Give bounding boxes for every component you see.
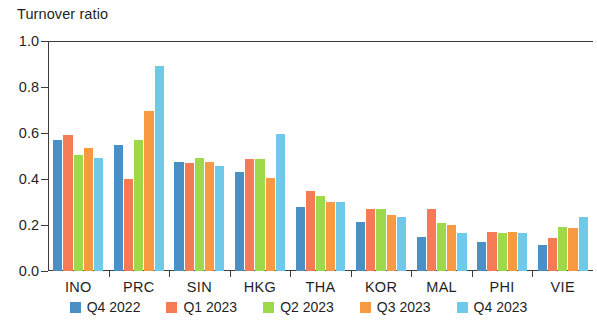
bar xyxy=(306,191,315,272)
bar xyxy=(185,163,194,271)
bar-group xyxy=(114,41,164,271)
legend-swatch-icon xyxy=(263,302,274,313)
bar xyxy=(397,217,406,271)
y-tick-mark xyxy=(41,133,48,134)
bar xyxy=(336,202,345,271)
bar xyxy=(518,233,527,271)
x-tick-label: PHI xyxy=(490,279,515,295)
x-tick-label: PRC xyxy=(123,279,155,295)
turnover-ratio-chart: Turnover ratio 0.00.20.40.60.81.0 INOPRC… xyxy=(0,0,597,325)
x-tick-mark xyxy=(532,271,533,277)
y-tick-label: 0.0 xyxy=(19,263,39,279)
bar xyxy=(477,242,486,271)
legend-item-label: Q3 2023 xyxy=(377,299,431,315)
y-axis-line xyxy=(48,41,49,271)
bar-group xyxy=(53,41,103,271)
y-tick-label: 0.8 xyxy=(19,79,39,95)
x-tick-mark xyxy=(109,271,110,277)
legend-swatch-icon xyxy=(360,302,371,313)
plot-area: 0.00.20.40.60.81.0 INOPRCSINHKGTHAKORMAL… xyxy=(48,41,593,271)
x-tick-mark xyxy=(230,271,231,277)
y-tick-mark xyxy=(41,225,48,226)
bar xyxy=(155,66,164,271)
legend-swatch-icon xyxy=(457,302,468,313)
bar xyxy=(276,134,285,271)
x-tick-mark xyxy=(290,271,291,277)
bar xyxy=(417,237,426,272)
legend-item[interactable]: Q3 2023 xyxy=(360,299,431,315)
bar xyxy=(114,145,123,272)
bar xyxy=(376,209,385,271)
x-tick-label: INO xyxy=(65,279,92,295)
bar-group xyxy=(174,41,224,271)
y-tick-mark xyxy=(41,271,48,272)
bar xyxy=(205,162,214,271)
bar xyxy=(356,222,365,271)
bar xyxy=(316,196,325,271)
y-tick-mark xyxy=(41,87,48,88)
bar xyxy=(195,158,204,271)
x-tick-mark xyxy=(472,271,473,277)
bar xyxy=(558,227,567,271)
bar-group xyxy=(538,41,588,271)
bar xyxy=(94,158,103,271)
bar-group xyxy=(296,41,346,271)
bar xyxy=(53,140,62,271)
bar xyxy=(144,111,153,271)
bar xyxy=(255,159,264,271)
bar xyxy=(387,215,396,271)
x-tick-label: MAL xyxy=(426,279,457,295)
x-tick-label: KOR xyxy=(365,279,397,295)
chart-legend: Q4 2022Q1 2023Q2 2023Q3 2023Q4 2023 xyxy=(0,299,597,315)
bar xyxy=(235,172,244,271)
bar xyxy=(568,228,577,271)
chart-title: Turnover ratio xyxy=(17,6,108,22)
y-tick-label: 0.6 xyxy=(19,125,39,141)
legend-item-label: Q4 2023 xyxy=(474,299,528,315)
bar xyxy=(215,166,224,271)
bar xyxy=(124,179,133,271)
bar xyxy=(84,148,93,271)
legend-item-label: Q4 2022 xyxy=(87,299,141,315)
bar xyxy=(366,209,375,271)
x-tick-mark xyxy=(411,271,412,277)
bar xyxy=(498,233,507,271)
bar xyxy=(245,159,254,271)
x-tick-label: HKG xyxy=(244,279,276,295)
y-tick-label: 0.4 xyxy=(19,171,39,187)
x-tick-label: THA xyxy=(306,279,336,295)
bar xyxy=(538,245,547,271)
legend-item[interactable]: Q1 2023 xyxy=(166,299,237,315)
legend-swatch-icon xyxy=(70,302,81,313)
bar xyxy=(74,155,83,271)
bar-group xyxy=(235,41,285,271)
legend-item[interactable]: Q2 2023 xyxy=(263,299,334,315)
x-tick-mark xyxy=(169,271,170,277)
bar xyxy=(134,140,143,271)
legend-item[interactable]: Q4 2022 xyxy=(70,299,141,315)
bar xyxy=(579,217,588,271)
y-tick-mark xyxy=(41,179,48,180)
bar xyxy=(296,207,305,271)
bar xyxy=(447,225,456,271)
x-tick-mark xyxy=(351,271,352,277)
bar xyxy=(63,135,72,271)
bar xyxy=(174,162,183,271)
bar xyxy=(457,233,466,271)
bar xyxy=(437,223,446,271)
bar xyxy=(326,202,335,271)
bar-group xyxy=(477,41,527,271)
bar xyxy=(508,232,517,271)
y-tick-mark xyxy=(41,41,48,42)
legend-swatch-icon xyxy=(166,302,177,313)
y-tick-label: 0.2 xyxy=(19,217,39,233)
bar-group xyxy=(417,41,467,271)
bar xyxy=(487,232,496,271)
x-tick-label: SIN xyxy=(187,279,212,295)
bar-group xyxy=(356,41,406,271)
legend-item-label: Q2 2023 xyxy=(280,299,334,315)
legend-item[interactable]: Q4 2023 xyxy=(457,299,528,315)
x-tick-label: VIE xyxy=(551,279,575,295)
legend-item-label: Q1 2023 xyxy=(183,299,237,315)
bar xyxy=(548,238,557,271)
